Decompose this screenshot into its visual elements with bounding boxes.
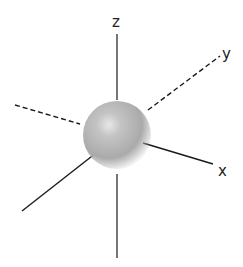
s-orbital-sphere xyxy=(83,101,151,169)
y-axis-negative xyxy=(22,153,96,211)
x-axis-positive xyxy=(143,143,213,164)
y-axis-positive xyxy=(148,56,220,110)
x-axis-label: x xyxy=(218,162,227,180)
x-axis-negative xyxy=(15,105,80,124)
y-axis-label: y xyxy=(222,45,231,63)
orbital-diagram: z y x xyxy=(0,0,243,267)
z-axis-label: z xyxy=(112,13,120,31)
